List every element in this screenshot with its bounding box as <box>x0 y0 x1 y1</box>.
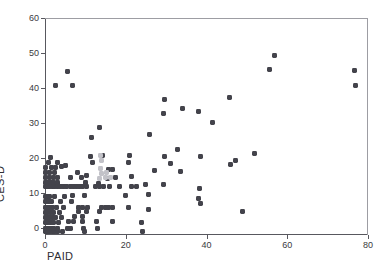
data-point <box>198 154 203 159</box>
data-point <box>71 219 76 224</box>
data-point <box>99 158 104 163</box>
data-point <box>53 83 58 88</box>
data-point <box>161 111 166 116</box>
data-point <box>175 147 180 152</box>
data-point <box>240 209 245 214</box>
data-point <box>56 220 61 225</box>
data-point <box>168 161 173 166</box>
data-point <box>126 205 131 210</box>
y-tick-label-30: 30 <box>29 119 39 128</box>
plot-border-right <box>367 18 368 235</box>
data-point <box>51 220 56 225</box>
data-point <box>352 68 357 73</box>
data-point <box>272 53 277 58</box>
data-point <box>84 209 89 214</box>
data-point <box>123 193 128 198</box>
data-point <box>58 199 63 204</box>
plot-area: 0102030405060 020406080 <box>45 18 368 235</box>
data-point <box>62 194 67 199</box>
data-point <box>134 184 139 189</box>
data-point <box>129 174 134 179</box>
y-tick-40 <box>41 88 45 89</box>
data-point <box>80 219 85 224</box>
data-point <box>55 180 60 185</box>
data-point <box>76 209 81 214</box>
x-tick-40 <box>207 235 208 239</box>
data-point <box>101 184 106 189</box>
y-tick-label-60: 60 <box>29 14 39 23</box>
data-point <box>84 173 89 178</box>
data-point <box>233 158 238 163</box>
data-point <box>57 210 62 215</box>
data-point <box>94 219 99 224</box>
data-point <box>43 165 48 170</box>
data-point <box>198 201 203 206</box>
y-tick-30 <box>41 123 45 124</box>
data-point <box>48 155 53 160</box>
data-point <box>59 215 64 220</box>
data-point <box>143 182 148 187</box>
y-tick-label-50: 50 <box>29 49 39 58</box>
plot-border-top <box>45 18 368 19</box>
data-point <box>97 209 102 214</box>
x-tick-label-20: 20 <box>121 241 131 250</box>
data-point <box>152 168 157 173</box>
y-axis-title: CES-D <box>0 166 6 202</box>
data-point <box>82 193 87 198</box>
data-point <box>88 154 93 159</box>
data-point <box>55 160 60 165</box>
data-point <box>267 67 272 72</box>
x-tick-label-0: 0 <box>42 241 47 250</box>
data-point <box>196 196 201 201</box>
x-tick-label-60: 60 <box>282 241 292 250</box>
data-point <box>53 165 58 170</box>
data-point <box>252 151 257 156</box>
data-point <box>139 220 144 225</box>
data-point <box>97 125 102 130</box>
data-point <box>61 205 66 210</box>
y-tick-label-20: 20 <box>29 154 39 163</box>
y-tick-label-10: 10 <box>29 189 39 198</box>
data-point <box>81 226 86 231</box>
data-point <box>180 106 185 111</box>
data-point <box>162 154 167 159</box>
data-point <box>95 226 100 231</box>
data-point <box>70 83 75 88</box>
data-point <box>196 109 201 114</box>
x-tick-label-40: 40 <box>201 241 211 250</box>
data-point <box>89 135 94 140</box>
y-tick-20 <box>41 158 45 159</box>
data-point <box>69 199 74 204</box>
data-point <box>110 167 115 172</box>
data-point <box>126 160 131 165</box>
data-point <box>227 95 232 100</box>
x-tick-20 <box>126 235 127 239</box>
data-point <box>210 120 215 125</box>
data-point <box>53 215 58 220</box>
data-point <box>113 175 118 180</box>
y-tick-50 <box>41 53 45 54</box>
x-tick-label-80: 80 <box>363 241 373 250</box>
data-point <box>51 210 56 215</box>
data-point <box>117 184 122 189</box>
data-point <box>107 184 112 189</box>
data-point <box>140 229 145 234</box>
data-point <box>90 160 95 165</box>
data-point <box>146 207 151 212</box>
y-tick-60 <box>41 18 45 19</box>
data-point <box>147 132 152 137</box>
y-tick-label-40: 40 <box>29 84 39 93</box>
data-point <box>83 180 88 185</box>
data-point <box>146 192 151 197</box>
x-tick-60 <box>287 235 288 239</box>
data-point <box>80 214 85 219</box>
data-point <box>85 205 90 210</box>
data-point <box>65 69 70 74</box>
x-tick-80 <box>368 235 369 239</box>
data-point <box>55 175 60 180</box>
data-point <box>52 194 57 199</box>
data-point <box>353 83 358 88</box>
data-point <box>96 181 101 186</box>
scatter-plot-figure: CES-D PAID 0102030405060 020406080 <box>0 0 384 275</box>
data-point <box>55 226 60 231</box>
